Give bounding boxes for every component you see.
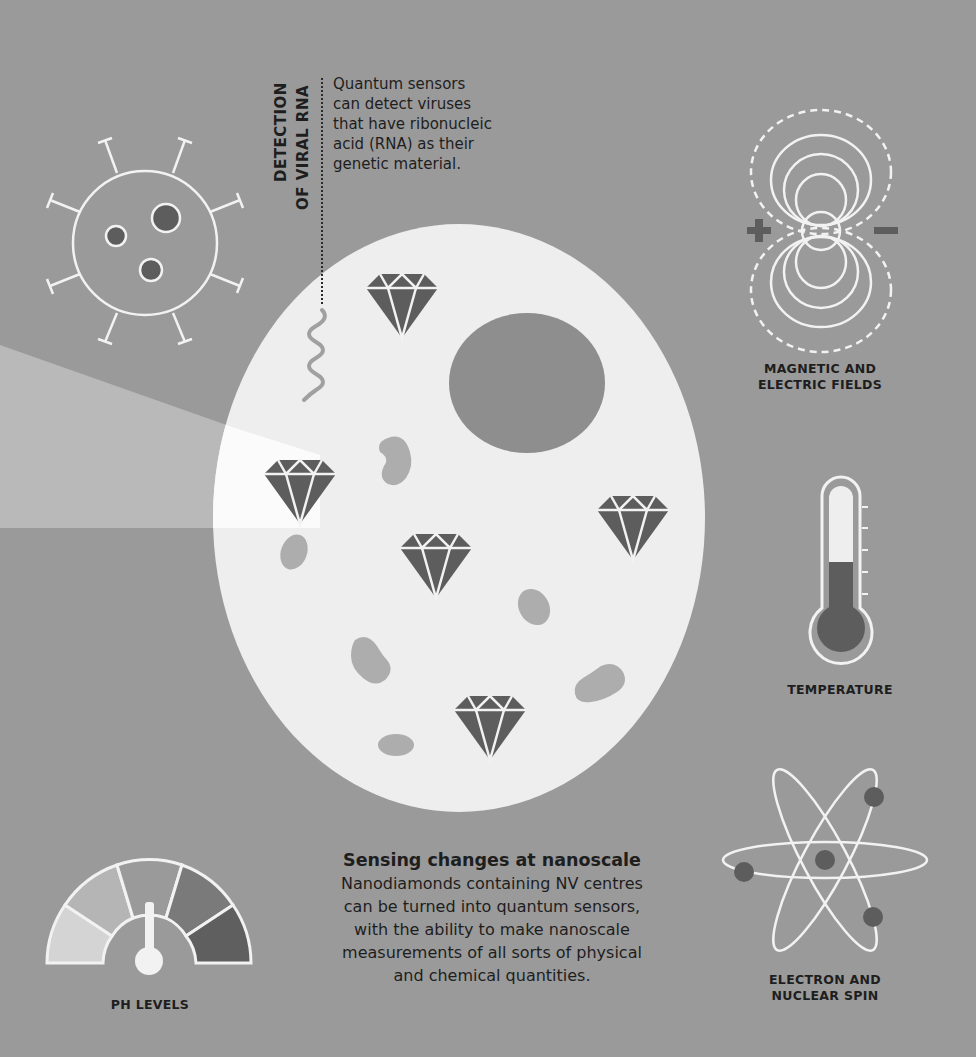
viral-rna-desc-line: can detect viruses xyxy=(333,94,513,114)
atom-spin-icon xyxy=(723,760,927,961)
spin-label: ELECTRON AND NUCLEAR SPIN xyxy=(745,972,905,1004)
virus-icon xyxy=(47,138,243,344)
ph-gauge-icon xyxy=(47,860,251,975)
viral-rna-desc-line: that have ribonucleic xyxy=(333,114,513,134)
thermometer-icon xyxy=(810,477,872,663)
viral-rna-desc-line: acid (RNA) as their xyxy=(333,134,513,154)
spin-label-line1: ELECTRON AND xyxy=(745,972,905,988)
fields-label: MAGNETIC AND ELECTRIC FIELDS xyxy=(740,361,900,393)
nanodiamond-sensing-diagram: DETECTION OF VIRAL RNA Quantum sensors c… xyxy=(0,0,976,1057)
ph-label: PH LEVELS xyxy=(70,997,230,1013)
viral-rna-description: Quantum sensors can detect viruses that … xyxy=(333,74,513,174)
viral-rna-heading: DETECTION OF VIRAL RNA xyxy=(268,72,328,212)
cell-nucleus xyxy=(449,313,605,453)
temperature-label: TEMPERATURE xyxy=(760,682,920,698)
caption-line: can be turned into quantum sensors, xyxy=(282,895,702,918)
viral-rna-heading-line2: OF VIRAL RNA xyxy=(294,85,312,210)
viral-rna-heading-line1: DETECTION xyxy=(272,82,290,182)
viral-rna-desc-line: Quantum sensors xyxy=(333,74,513,94)
spin-label-line2: NUCLEAR SPIN xyxy=(745,988,905,1004)
caption-line: Nanodiamonds containing NV centres xyxy=(282,872,702,895)
caption: Sensing changes at nanoscale Nanodiamond… xyxy=(282,848,702,987)
viral-rna-desc-line: genetic material. xyxy=(333,154,513,174)
caption-line: measurements of all sorts of physical xyxy=(282,941,702,964)
fields-label-line2: ELECTRIC FIELDS xyxy=(740,377,900,393)
light-beam xyxy=(0,345,235,528)
magnetic-electric-fields-icon xyxy=(747,110,898,352)
caption-body: Nanodiamonds containing NV centres can b… xyxy=(282,872,702,987)
caption-line: and chemical quantities. xyxy=(282,964,702,987)
caption-line: with the ability to make nanoscale xyxy=(282,918,702,941)
fields-label-line1: MAGNETIC AND xyxy=(740,361,900,377)
caption-title: Sensing changes at nanoscale xyxy=(282,848,702,872)
